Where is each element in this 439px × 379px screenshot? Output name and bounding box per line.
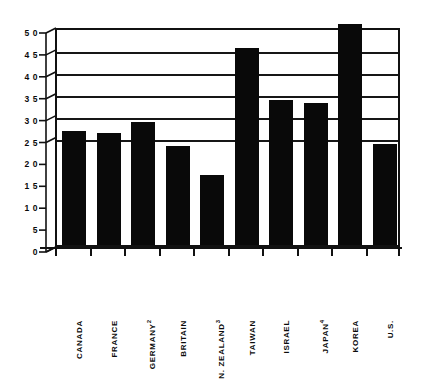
y-axis-tick-labels: 051 01 52 02 53 03 54 04 55 0: [6, 0, 38, 323]
x-axis-category-labels: CANADAFRANCEGERMANY2BRITAINN. ZEALAND3TA…: [55, 256, 400, 323]
bar: [131, 122, 155, 245]
x-axis-category-label: TAIWAN: [249, 320, 257, 355]
y-axis-tick-label: 0: [33, 248, 38, 257]
x-axis-tickmark: [398, 247, 400, 256]
x-axis-category-label: CANADA: [76, 320, 84, 359]
x-axis-tickmarks: [55, 247, 400, 256]
x-axis-tickmark: [228, 247, 230, 256]
x-axis-tickmark: [90, 247, 92, 256]
bar: [304, 103, 328, 245]
x-axis-category-label: GERMANY2: [145, 320, 157, 369]
x-axis-category-label: ISRAEL: [283, 320, 291, 354]
y-axis-tick-label: 3 5: [24, 94, 38, 103]
bar: [97, 133, 121, 245]
bar: [235, 48, 259, 245]
footnote-marker: 2: [146, 320, 152, 323]
x-axis-tickmark: [331, 247, 333, 256]
x-axis-tickmark: [262, 247, 264, 256]
x-axis-category-label: U.S.: [387, 320, 395, 338]
y-axis-tick-label: 5: [33, 226, 38, 235]
footnote-marker: 4: [319, 320, 325, 323]
x-axis-category-label: KOREA: [352, 320, 360, 352]
x-axis-tickmark: [193, 247, 195, 256]
x-axis-tickmark: [159, 247, 161, 256]
x-axis-category-label: BRITAIN: [180, 320, 188, 357]
y-axis-tick-label: 3 0: [24, 116, 38, 125]
x-axis-category-label: FRANCE: [111, 320, 119, 358]
y-axis-tick-label: 5 0: [24, 29, 38, 38]
bar: [373, 144, 397, 245]
x-axis-category-label: N. ZEALAND3: [214, 320, 226, 379]
plot-area: [55, 28, 400, 247]
x-axis-tickmark: [297, 247, 299, 256]
bar: [200, 175, 224, 245]
y-axis-tick-label: 4 5: [24, 50, 38, 59]
x-axis-tickmark: [124, 247, 126, 256]
x-axis-tickmark: [55, 247, 57, 256]
bar: [166, 146, 190, 245]
bar: [338, 24, 362, 245]
y-axis-tick-label: 1 5: [24, 182, 38, 191]
y-axis-tick-label: 2 5: [24, 138, 38, 147]
chart-title: [0, 0, 1, 1]
bar-series: [57, 30, 398, 245]
x-axis-category-label: JAPAN4: [318, 320, 330, 353]
y-axis-tick-label: 2 0: [24, 160, 38, 169]
y-axis-tick-label: 1 0: [24, 204, 38, 213]
bar: [62, 131, 86, 245]
bar: [269, 100, 293, 245]
y-axis-tick-label: 4 0: [24, 72, 38, 81]
x-axis-tickmark: [366, 247, 368, 256]
footnote-marker: 3: [215, 320, 221, 323]
